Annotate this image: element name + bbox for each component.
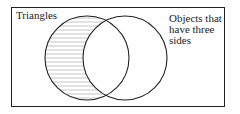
set-label-line-3: sides	[169, 35, 222, 46]
set-label-triangles: Triangles	[16, 10, 57, 21]
set-label-three-sided: Objects that have three sides	[169, 13, 222, 46]
